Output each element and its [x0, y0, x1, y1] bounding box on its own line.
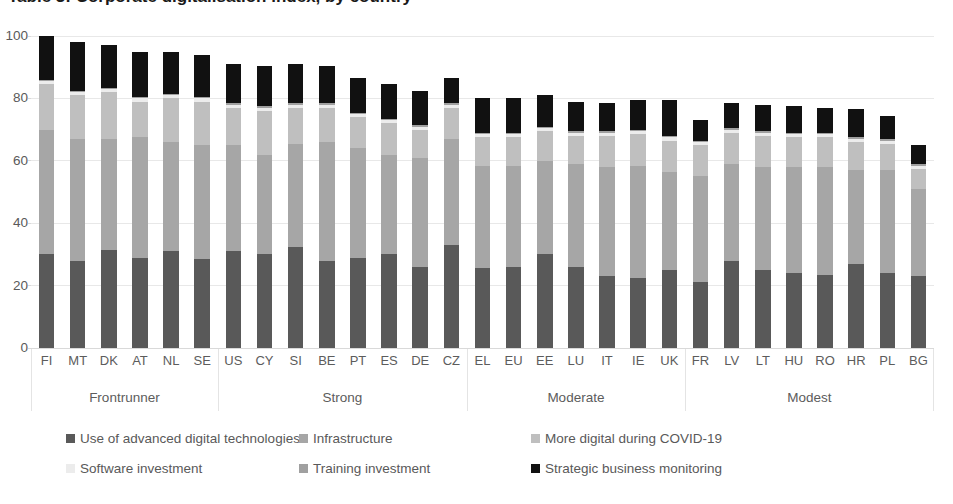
bar-segment — [381, 155, 397, 255]
x-axis-tick-label: EE — [529, 350, 560, 372]
x-axis-tick-label: CZ — [436, 350, 467, 372]
x-axis-tick-label: HR — [841, 350, 872, 372]
y-axis: 020406080100 — [0, 36, 28, 348]
x-axis-tick-label: DE — [405, 350, 436, 372]
bar-segment — [39, 130, 55, 255]
bar-lu — [568, 102, 584, 348]
bar-segment — [257, 66, 273, 107]
bar-segment — [381, 254, 397, 348]
bar-segment — [257, 155, 273, 255]
y-axis-tick-label: 40 — [2, 216, 28, 230]
legend-swatch-icon — [531, 464, 540, 473]
x-axis-tick-label: RO — [809, 350, 840, 372]
bar-segment — [319, 142, 335, 261]
bar-ro — [817, 108, 833, 348]
bar-dk — [101, 45, 117, 348]
bar-hu — [786, 106, 802, 348]
legend-swatch-icon — [66, 464, 75, 473]
bar-si — [288, 64, 304, 348]
bar-segment — [381, 123, 397, 154]
legend-swatch-icon — [531, 434, 540, 443]
x-axis-tick-label: LV — [716, 350, 747, 372]
bar-segment — [475, 268, 491, 348]
bar-segment — [630, 134, 646, 165]
legend-label: Strategic business monitoring — [545, 461, 722, 476]
bar-be — [319, 66, 335, 348]
group-separator — [467, 349, 468, 411]
bar-segment — [848, 170, 864, 264]
bar-el — [475, 98, 491, 348]
bar-segment — [350, 148, 366, 257]
bar-segment — [350, 117, 366, 148]
bar-segment — [39, 36, 55, 80]
bar-se — [194, 55, 210, 348]
bar-segment — [163, 52, 179, 94]
bar-fi — [39, 36, 55, 348]
bar-segment — [101, 139, 117, 250]
bar-segment — [630, 278, 646, 348]
bar-segment — [163, 251, 179, 348]
bar-segment — [568, 267, 584, 348]
bar-segment — [662, 141, 678, 172]
y-axis-tick-label: 0 — [2, 341, 28, 355]
group-separator — [31, 349, 32, 411]
bar-segment — [911, 169, 927, 189]
bar-segment — [537, 131, 553, 161]
x-axis-tick-label: PL — [872, 350, 903, 372]
bar-segment — [70, 139, 86, 261]
legend-label: Infrastructure — [313, 431, 393, 446]
group-label-modest: Modest — [685, 385, 934, 411]
group-separator — [933, 349, 934, 411]
x-axis-tick-label: SI — [280, 350, 311, 372]
bar-segment — [693, 282, 709, 348]
bar-segment — [288, 64, 304, 103]
bar-pl — [880, 116, 896, 348]
bar-segment — [226, 145, 242, 251]
legend-item[interactable]: Strategic business monitoring — [531, 461, 722, 476]
bar-segment — [786, 137, 802, 167]
bar-mt — [70, 42, 86, 348]
x-axis-group-labels: FrontrunnerStrongModerateModest — [31, 385, 934, 411]
bar-segment — [319, 66, 335, 103]
bar-hr — [848, 109, 864, 348]
bar-segment — [194, 55, 210, 97]
bar-segment — [412, 158, 428, 267]
legend-item[interactable]: Software investment — [66, 461, 202, 476]
legend-item[interactable]: Training investment — [299, 461, 430, 476]
bar-segment — [724, 261, 740, 348]
x-axis-tick-label: FR — [685, 350, 716, 372]
bar-segment — [724, 103, 740, 128]
bar-segment — [662, 100, 678, 136]
bar-segment — [257, 254, 273, 348]
x-axis-tick-label: EL — [467, 350, 498, 372]
bar-eu — [506, 98, 522, 348]
x-axis-tick-label: UK — [654, 350, 685, 372]
bar-segment — [444, 245, 460, 348]
bar-segment — [101, 250, 117, 348]
x-axis-tick-label: HU — [778, 350, 809, 372]
x-axis-tick-label: FI — [31, 350, 62, 372]
bar-segment — [257, 111, 273, 155]
chart-legend: Use of advanced digital technologiesInfr… — [0, 424, 953, 486]
bar-segment — [599, 276, 615, 348]
legend-swatch-icon — [299, 464, 308, 473]
bar-segment — [911, 189, 927, 276]
x-axis-tick-label: CY — [249, 350, 280, 372]
bar-segment — [848, 264, 864, 348]
legend-item[interactable]: Infrastructure — [299, 431, 393, 446]
bar-lt — [755, 105, 771, 348]
bar-segment — [132, 102, 148, 138]
bar-segment — [817, 137, 833, 167]
x-axis-tick-label: BE — [311, 350, 342, 372]
legend-item[interactable]: Use of advanced digital technologies — [66, 431, 300, 446]
legend-item[interactable]: More digital during COVID-19 — [531, 431, 722, 446]
bar-segment — [506, 137, 522, 165]
bar-segment — [132, 258, 148, 348]
bar-segment — [911, 145, 927, 164]
chart-title-clipped: Table 3: Corporate digitalisation index,… — [0, 0, 953, 13]
bar-segment — [599, 103, 615, 131]
bar-segment — [475, 137, 491, 165]
bar-segment — [880, 170, 896, 273]
x-axis-tick-label: SE — [187, 350, 218, 372]
bar-segment — [506, 98, 522, 132]
